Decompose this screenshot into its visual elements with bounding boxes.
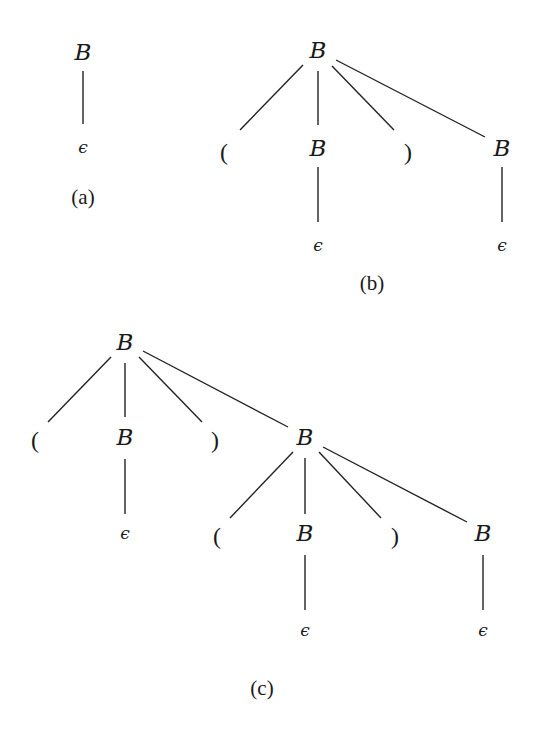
tree-c-nonterminal-node: B (117, 331, 134, 354)
tree-c-edge (48, 357, 111, 422)
tree-c-terminal-node: ) (211, 428, 219, 452)
tree-c-nonterminal-node: B (297, 522, 314, 545)
tree-c-terminal-node: ( (31, 428, 39, 452)
tree-a-epsilon-node: ϵ (78, 139, 88, 156)
tree-c-nonterminal-node: B (475, 522, 492, 545)
tree-b-nonterminal-node: B (310, 39, 327, 62)
tree-c-nonterminal-node: B (297, 426, 314, 449)
tree-c-edge (230, 452, 293, 518)
tree-c-epsilon-node: ϵ (300, 622, 310, 639)
tree-b-edge (240, 65, 303, 130)
tree-c-epsilon-node: ϵ (478, 622, 488, 639)
tree-b-caption: (b) (360, 271, 385, 296)
tree-c-epsilon-node: ϵ (120, 525, 130, 542)
tree-a-caption: (a) (71, 185, 94, 210)
tree-a-nonterminal-node: B (75, 41, 92, 64)
tree-b-nonterminal-node: B (310, 137, 327, 160)
tree-b-epsilon-node: ϵ (313, 237, 323, 254)
tree-c-edge (323, 447, 467, 522)
tree-c-caption: (c) (250, 676, 273, 701)
tree-edges (0, 0, 540, 730)
parse-tree-figure: Bϵ(a)B(B)Bϵϵ(b)B(B)Bϵ(B)Bϵϵ(c) (0, 0, 540, 730)
tree-b-terminal-node: ( (220, 140, 228, 164)
tree-b-epsilon-node: ϵ (497, 237, 507, 254)
tree-c-edge (139, 357, 202, 422)
tree-b-edge (336, 60, 485, 137)
tree-b-nonterminal-node: B (494, 137, 511, 160)
tree-c-nonterminal-node: B (117, 426, 134, 449)
tree-c-terminal-node: ( (213, 524, 221, 548)
tree-c-terminal-node: ) (391, 524, 399, 548)
tree-c-edge (143, 351, 288, 427)
tree-c-edge (319, 452, 381, 518)
tree-b-edge (332, 66, 394, 130)
tree-b-terminal-node: ) (404, 140, 412, 164)
